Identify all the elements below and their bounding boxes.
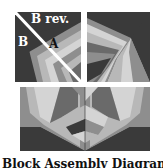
label-b: B (18, 36, 28, 48)
block-corner-graphic (87, 12, 150, 82)
label-b-rev: B rev. (31, 13, 69, 25)
top-left-block-panel: B rev. B A (15, 12, 81, 82)
diagram-caption: Block Assembly Diagram (2, 157, 163, 168)
top-right-block-panel (87, 12, 150, 82)
bottom-assembled-block-panel (20, 87, 150, 151)
assembled-block-graphic (20, 87, 150, 151)
label-a: A (49, 38, 58, 50)
